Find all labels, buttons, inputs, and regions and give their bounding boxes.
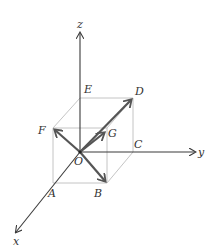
origin-point — [78, 150, 81, 153]
label-C: C — [134, 138, 143, 151]
vector-OF — [55, 130, 80, 152]
label-D: D — [134, 85, 144, 98]
vector-OD — [80, 100, 131, 152]
label-O: O — [74, 155, 83, 168]
label-G: G — [108, 127, 117, 140]
label-F: F — [37, 124, 46, 137]
label-E: E — [83, 83, 92, 96]
label-z: z — [76, 18, 83, 31]
label-y: y — [197, 146, 205, 159]
cube-diagram: z y x O E D F G C A B — [0, 0, 217, 248]
label-B: B — [93, 187, 102, 200]
label-A: A — [47, 187, 56, 200]
vector-OG — [80, 133, 104, 152]
vector-OB — [80, 152, 105, 181]
label-x: x — [13, 235, 20, 248]
